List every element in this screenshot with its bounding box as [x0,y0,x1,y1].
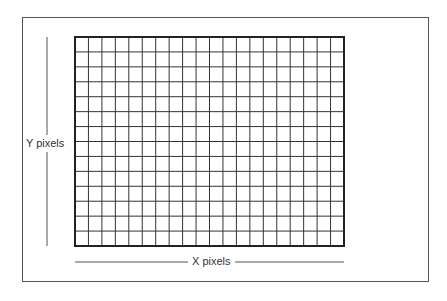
x-axis-label: X pixels [188,255,235,268]
pixel-grid [75,37,344,246]
y-axis-label: Y pixels [24,137,66,150]
